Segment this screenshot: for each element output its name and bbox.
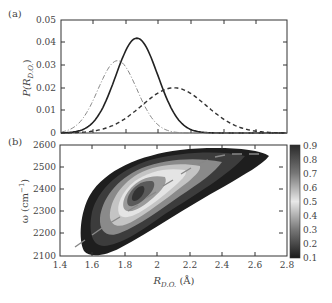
svg-text:0.7: 0.7	[303, 169, 318, 179]
svg-text:0.05: 0.05	[36, 15, 56, 25]
svg-text:0.01: 0.01	[36, 105, 56, 115]
svg-text:1.4: 1.4	[53, 260, 68, 270]
panel-a-frame	[61, 20, 287, 133]
panel-a-yticks: 0.05 0.04 0.03 0.02 0.01 0	[36, 15, 287, 138]
colorbar	[290, 145, 300, 258]
curve-dash-dot	[61, 61, 287, 133]
svg-text:0.8: 0.8	[303, 155, 318, 165]
svg-text:1.8: 1.8	[118, 260, 133, 270]
panel-b-label: (b)	[8, 136, 22, 147]
panel-a-label: (a)	[8, 8, 22, 19]
panel-a-ylabel: P(RD.O.)	[21, 59, 35, 97]
svg-text:2300: 2300	[33, 206, 56, 216]
svg-text:0.03: 0.03	[36, 60, 56, 70]
svg-text:2.4: 2.4	[215, 260, 230, 270]
contour-fill	[75, 148, 269, 255]
panel-b-yticks: 2600 2500 2400 2300 2200 2100	[33, 140, 56, 261]
figure: (a) 0.05 0.04 0.03 0.02 0.01 0 P(RD.O.) …	[0, 0, 332, 303]
svg-text:0.2: 0.2	[303, 239, 317, 249]
svg-text:2600: 2600	[33, 140, 56, 150]
svg-text:0.04: 0.04	[36, 37, 56, 47]
svg-text:2.8: 2.8	[280, 260, 295, 270]
svg-text:0.4: 0.4	[303, 211, 318, 221]
svg-text:2.6: 2.6	[248, 260, 263, 270]
colorbar-ticks: 0.9 0.8 0.7 0.6 0.5 0.4 0.3 0.2 0.1	[303, 141, 318, 263]
svg-text:2200: 2200	[33, 228, 56, 238]
svg-text:2400: 2400	[33, 184, 56, 194]
svg-text:2.2: 2.2	[183, 260, 197, 270]
panel-b-xticks: 1.4 1.6 1.8 2 2.2 2.4 2.6 2.8	[53, 260, 295, 270]
svg-text:1.6: 1.6	[85, 260, 100, 270]
curve-dashed	[61, 88, 287, 133]
svg-text:0.02: 0.02	[36, 83, 56, 93]
panel-a-curves	[61, 38, 287, 133]
panel-b-ylabel: ω (cm−1)	[18, 179, 30, 224]
panel-a: (a) 0.05 0.04 0.03 0.02 0.01 0 P(RD.O.)	[8, 8, 287, 138]
svg-text:0.3: 0.3	[303, 225, 318, 235]
svg-text:0.6: 0.6	[303, 183, 318, 193]
svg-text:2500: 2500	[33, 162, 56, 172]
svg-text:0.1: 0.1	[303, 253, 317, 263]
svg-text:0.5: 0.5	[303, 197, 318, 207]
svg-text:0.9: 0.9	[303, 141, 318, 151]
panel-b: (b) 2600 2500 2400 2300 2200 2100 1.4 1.…	[8, 136, 318, 289]
svg-text:2: 2	[154, 260, 160, 270]
svg-text:0: 0	[50, 128, 56, 138]
panel-b-xlabel: RD.O. (Å)	[153, 275, 195, 289]
curve-solid	[61, 38, 287, 133]
